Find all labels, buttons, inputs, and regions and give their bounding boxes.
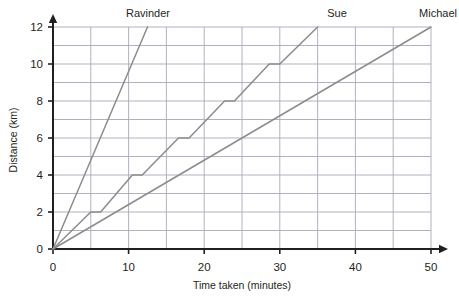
x-tick-label: 20 bbox=[198, 261, 211, 273]
chart-canvas: 01020304050 024681012 RavinderSueMichael… bbox=[0, 0, 459, 298]
y-tick-label: 12 bbox=[30, 21, 43, 33]
series-label-michael: Michael bbox=[419, 7, 457, 19]
x-tick-label: 50 bbox=[425, 261, 438, 273]
y-tick-label: 6 bbox=[37, 132, 43, 144]
y-axis-title: Distance (km) bbox=[7, 108, 19, 173]
y-tick-label: 4 bbox=[37, 169, 44, 181]
series-label-ravinder: Ravinder bbox=[126, 7, 170, 19]
x-tick-label: 10 bbox=[122, 261, 135, 273]
x-tick-label: 40 bbox=[349, 261, 362, 273]
chart-background bbox=[0, 0, 459, 298]
y-tick-label: 8 bbox=[37, 95, 43, 107]
series-label-sue: Sue bbox=[327, 7, 347, 19]
x-tick-label: 30 bbox=[273, 261, 286, 273]
x-axis-title: Time taken (minutes) bbox=[193, 279, 291, 291]
x-tick-label: 0 bbox=[50, 261, 56, 273]
y-tick-label: 2 bbox=[37, 206, 43, 218]
distance-time-graph: 01020304050 024681012 RavinderSueMichael… bbox=[0, 0, 459, 298]
y-tick-label: 0 bbox=[37, 243, 43, 255]
y-tick-label: 10 bbox=[30, 58, 43, 70]
